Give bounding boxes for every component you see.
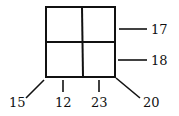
label-15: 15 (9, 95, 26, 110)
label-23: 23 (91, 95, 108, 110)
leader-line-15 (26, 80, 44, 98)
grid-diagram: 17 18 15 12 23 20 (0, 0, 179, 116)
label-20: 20 (143, 95, 160, 110)
label-18: 18 (151, 53, 168, 68)
label-12: 12 (55, 95, 72, 110)
leader-line-20 (116, 78, 140, 98)
label-17: 17 (151, 22, 168, 37)
